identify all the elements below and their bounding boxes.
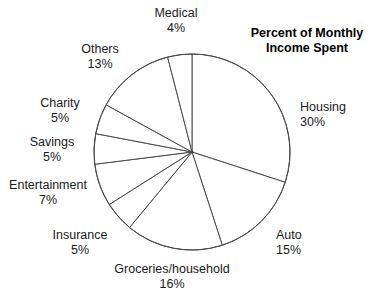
pie-label-name-charity: Charity [40,96,80,111]
pie-label-name-entertainment: Entertainment [9,178,87,193]
pie-label-value-auto: 15% [276,243,302,258]
chart-title: Percent of Monthly Income Spent [248,26,366,56]
pie-label-value-savings: 5% [30,150,74,165]
pie-label-name-medical: Medical [154,6,197,21]
pie-label-medical: Medical4% [154,6,197,36]
pie-label-savings: Savings5% [30,135,74,165]
pie-label-charity: Charity5% [40,96,80,126]
pie-label-value-housing: 30% [300,115,346,130]
pie-slices-group [94,54,290,250]
pie-label-insurance: Insurance5% [53,228,108,258]
pie-label-value-charity: 5% [40,111,80,126]
pie-label-name-insurance: Insurance [53,228,108,243]
pie-label-entertainment: Entertainment7% [9,178,87,208]
pie-label-name-savings: Savings [30,135,74,150]
pie-label-value-medical: 4% [154,21,197,36]
pie-label-auto: Auto15% [276,228,302,258]
pie-label-name-groceries-household: Groceries/household [114,262,229,277]
pie-label-name-auto: Auto [276,228,302,243]
pie-chart-page: Percent of Monthly Income Spent Housing3… [0,0,373,295]
pie-label-value-insurance: 5% [53,243,108,258]
pie-label-value-others: 13% [81,57,119,72]
pie-label-name-others: Others [81,42,119,57]
pie-label-value-groceries-household: 16% [114,277,229,292]
pie-center-point [190,150,193,153]
pie-label-name-housing: Housing [300,100,346,115]
pie-label-value-entertainment: 7% [9,193,87,208]
pie-label-others: Others13% [81,42,119,72]
pie-label-housing: Housing30% [300,100,346,130]
pie-label-groceries-household: Groceries/household16% [114,262,229,292]
